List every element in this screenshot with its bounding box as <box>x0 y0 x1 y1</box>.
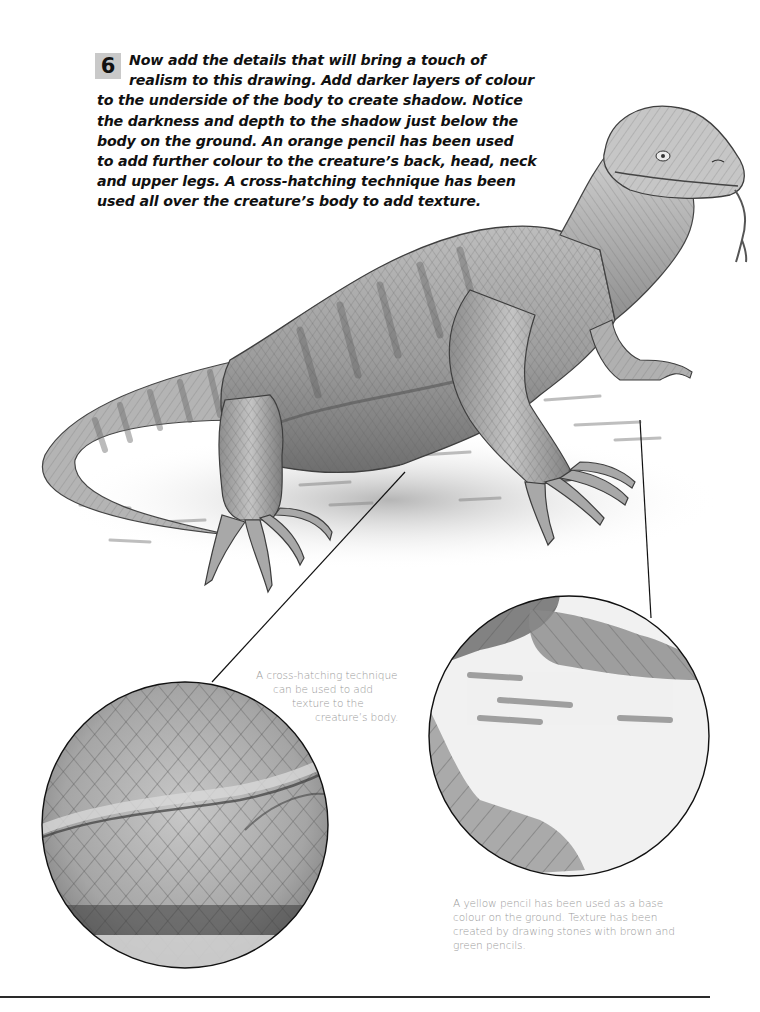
tongue <box>735 190 746 262</box>
detail-circle-ground <box>425 592 715 882</box>
caption-line: creature’s body. <box>256 710 398 724</box>
tutorial-page: 6 Now add the details that will bring a … <box>0 0 760 1012</box>
instruction-line: used all over the creature’s body to add… <box>97 191 497 211</box>
caption-line: A yellow pencil has been used as a base <box>453 896 675 910</box>
instruction-line: to the underside of the body to create s… <box>97 90 497 110</box>
caption-line: can be used to add <box>256 682 398 696</box>
instruction-line: realism to this drawing. Add darker laye… <box>97 70 497 90</box>
caption-ground: A yellow pencil has been used as a base … <box>453 896 675 952</box>
step-instructions: Now add the details that will bring a to… <box>97 50 497 212</box>
instruction-line: to add further colour to the creature’s … <box>97 151 497 171</box>
instruction-line: and upper legs. A cross-hatching techniq… <box>97 171 497 191</box>
page-footer-rule <box>0 996 710 998</box>
caption-cross-hatching: A cross-hatching technique can be used t… <box>256 668 398 724</box>
caption-line: colour on the ground. Texture has been <box>453 910 675 924</box>
instruction-line: the darkness and depth to the shadow jus… <box>97 111 497 131</box>
caption-line: texture to the <box>256 696 398 710</box>
instruction-line: Now add the details that will bring a to… <box>97 50 497 70</box>
instruction-line: body on the ground. An orange pencil has… <box>97 131 497 151</box>
caption-line: created by drawing stones with brown and <box>453 924 675 938</box>
caption-line: green pencils. <box>453 938 675 952</box>
caption-line: A cross-hatching technique <box>256 668 398 682</box>
